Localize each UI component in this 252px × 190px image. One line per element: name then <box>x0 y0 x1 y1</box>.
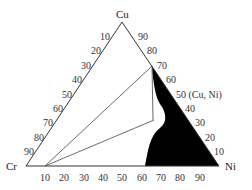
svg-text:70: 70 <box>43 117 53 128</box>
svg-text:90: 90 <box>195 172 205 183</box>
svg-text:10: 10 <box>214 146 224 157</box>
tie-line <box>45 66 152 166</box>
ternary-diagram: Cu Cr Ni 10 20 30 40 50 60 70 80 90 90 8… <box>0 0 252 190</box>
svg-text:40: 40 <box>185 103 195 114</box>
svg-text:30: 30 <box>81 60 91 71</box>
svg-text:40: 40 <box>72 74 82 85</box>
svg-text:50: 50 <box>117 172 127 183</box>
svg-text:70: 70 <box>156 172 166 183</box>
svg-text:20: 20 <box>59 172 69 183</box>
vertex-cu: Cu <box>116 8 129 20</box>
vertex-ni: Ni <box>225 160 236 172</box>
svg-text:30: 30 <box>195 117 205 128</box>
svg-text:20: 20 <box>91 45 101 56</box>
svg-text:70: 70 <box>157 60 167 71</box>
svg-text:90: 90 <box>138 31 148 42</box>
svg-text:40: 40 <box>98 172 108 183</box>
bottom-edge-ticks: 10 20 30 40 50 60 70 80 90 <box>40 172 205 183</box>
svg-text:20: 20 <box>205 132 215 143</box>
svg-text:60: 60 <box>166 74 176 85</box>
svg-text:60: 60 <box>53 103 63 114</box>
svg-text:50 (Cu, Ni): 50 (Cu, Ni) <box>176 89 222 101</box>
cu-ni-region <box>145 66 219 166</box>
tie-line <box>45 120 154 166</box>
svg-text:80: 80 <box>147 45 157 56</box>
svg-text:90: 90 <box>24 146 34 157</box>
vertex-cr: Cr <box>6 160 17 172</box>
svg-text:80: 80 <box>34 132 44 143</box>
svg-text:10: 10 <box>40 172 50 183</box>
svg-text:80: 80 <box>175 172 185 183</box>
left-edge-ticks: 10 20 30 40 50 60 70 80 90 <box>24 31 110 157</box>
svg-text:30: 30 <box>79 172 89 183</box>
svg-text:10: 10 <box>100 31 110 42</box>
svg-text:50: 50 <box>62 89 72 100</box>
svg-text:60: 60 <box>137 172 147 183</box>
